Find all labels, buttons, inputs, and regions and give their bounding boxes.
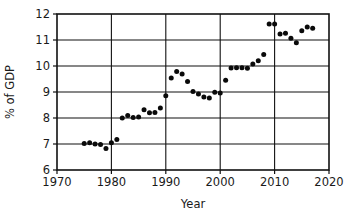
x-tick-label: 1970 [42, 175, 71, 189]
data-point [256, 58, 261, 63]
data-point [82, 141, 87, 146]
data-point [299, 28, 304, 33]
data-point [114, 137, 119, 142]
data-point [201, 94, 206, 99]
data-point [288, 36, 293, 41]
scatter-chart: 6789101112 197019801990200020102020 Year… [0, 0, 348, 216]
data-point [245, 66, 250, 71]
data-point [267, 21, 272, 26]
x-tick-label: 2010 [260, 175, 289, 189]
x-tick-label: 2020 [314, 175, 343, 189]
data-point [218, 91, 223, 96]
data-point [169, 75, 174, 80]
data-point [87, 140, 92, 145]
data-point [212, 90, 217, 95]
data-point [234, 65, 239, 70]
chart-figure: 6789101112 197019801990200020102020 Year… [0, 0, 348, 216]
y-tick-label: 8 [43, 111, 50, 125]
y-tick-label: 11 [35, 33, 50, 47]
data-point [185, 79, 190, 84]
data-point [261, 52, 266, 57]
data-point [120, 116, 125, 121]
data-point [158, 106, 163, 111]
x-tick-label: 1990 [151, 175, 180, 189]
data-point [310, 26, 315, 31]
data-point [283, 31, 288, 36]
data-point [207, 95, 212, 100]
x-tick-label: 2000 [206, 175, 235, 189]
data-point [174, 69, 179, 74]
data-point [223, 78, 228, 83]
y-tick-label: 12 [35, 7, 50, 21]
data-point [250, 61, 255, 66]
data-point [142, 107, 147, 112]
y-tick-label: 7 [43, 137, 50, 151]
data-point [103, 146, 108, 151]
data-point [98, 142, 103, 147]
data-point [294, 40, 299, 45]
data-point [180, 72, 185, 77]
data-point [109, 140, 114, 145]
data-point [196, 92, 201, 97]
data-point [147, 110, 152, 115]
data-point [191, 89, 196, 94]
data-point [272, 21, 277, 26]
data-point [229, 66, 234, 71]
data-point [131, 115, 136, 120]
data-point [125, 113, 130, 118]
x-axis-title: Year [180, 197, 206, 211]
x-tick-label: 1980 [97, 175, 126, 189]
y-tick-label: 10 [35, 59, 50, 73]
data-point [305, 25, 310, 30]
data-point [93, 142, 98, 147]
data-point [152, 110, 157, 115]
y-tick-label: 9 [43, 85, 50, 99]
data-point [278, 32, 283, 37]
data-point [239, 65, 244, 70]
y-axis-title: % of GDP [3, 65, 17, 119]
data-point [163, 93, 168, 98]
data-point [136, 114, 141, 119]
